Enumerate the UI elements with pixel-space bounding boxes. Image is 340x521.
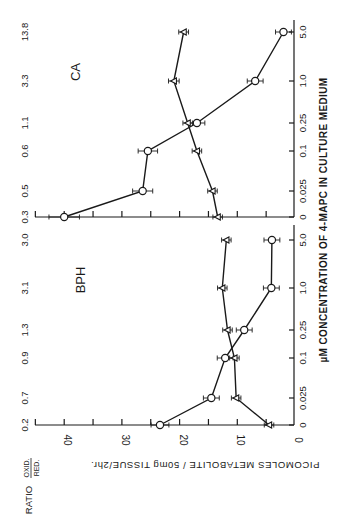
- circle-marker: [139, 187, 146, 194]
- triangle-marker: [171, 78, 177, 84]
- axis-labels: 00.30.0250.50.10.60.251.11.03.35.013.8CA…: [19, 23, 329, 514]
- panel-title: BPH: [73, 267, 88, 294]
- ratio-value: 3.1: [19, 281, 30, 294]
- triangle-marker: [214, 214, 220, 220]
- ratio-value: 1.3: [19, 323, 30, 336]
- triangle-marker: [224, 327, 230, 333]
- panel-title: CA: [68, 63, 83, 81]
- circle-marker: [61, 213, 68, 220]
- circle-marker: [268, 236, 275, 243]
- conc-tick-label: 0.1: [297, 144, 308, 157]
- circle-marker: [193, 119, 200, 126]
- value-tick-label: 30: [120, 434, 131, 446]
- ratio-value: 0.6: [19, 144, 30, 157]
- circle-marker: [252, 77, 259, 84]
- triangle-marker: [180, 29, 186, 35]
- ratio-value: 3.3: [19, 74, 30, 87]
- conc-tick-label: 0.1: [297, 351, 308, 364]
- conc-tick-label: 0: [297, 214, 308, 219]
- conc-tick-label: 5.0: [297, 25, 308, 38]
- triangle-marker: [223, 237, 229, 243]
- ratio-value: 13.8: [19, 23, 30, 42]
- circle-marker: [268, 284, 275, 291]
- triangle-marker: [194, 148, 200, 154]
- conc-tick-label: 5.0: [297, 233, 308, 246]
- circle-marker: [280, 28, 287, 35]
- plot-area: [49, 28, 291, 428]
- conc-tick-label: 0.25: [297, 114, 308, 133]
- ratio-value: 0.9: [19, 351, 30, 364]
- series-line: [160, 240, 272, 425]
- conc-tick-label: 1.0: [297, 281, 308, 294]
- circle-marker: [156, 421, 163, 428]
- triangle-marker: [233, 395, 239, 401]
- value-axis-title: PICOMOLES METABOLITE / 50mg TISSUE/2hr.: [91, 460, 320, 471]
- ratio-label: RATIO: [23, 486, 34, 514]
- triangle-marker: [184, 120, 190, 126]
- conc-tick-label: 0.025: [297, 179, 308, 203]
- ratio-numerator: OXID.: [23, 458, 30, 477]
- triangle-marker: [231, 355, 237, 361]
- triangle-marker: [219, 285, 225, 291]
- ratio-value: 0.7: [19, 391, 30, 404]
- value-tick-label: 0: [293, 437, 304, 443]
- circle-marker: [241, 326, 248, 333]
- conc-tick-label: 0.025: [297, 386, 308, 410]
- conc-tick-label: 0.25: [297, 321, 308, 340]
- circle-marker: [208, 394, 215, 401]
- concentration-axis-title: µM CONCENTRATION OF 4-MAPC IN CULTURE ME…: [318, 77, 329, 362]
- ratio-value: 0.5: [19, 184, 30, 197]
- triangle-marker: [209, 188, 215, 194]
- circle-marker: [222, 354, 229, 361]
- circle-marker: [144, 147, 151, 154]
- series-line: [64, 32, 283, 217]
- value-tick-label: 40: [62, 434, 73, 446]
- ratio-value: 1.1: [19, 116, 30, 129]
- ratio-value: 0.2: [19, 418, 30, 431]
- ratio-value: 3.0: [19, 233, 30, 246]
- conc-tick-label: 0: [297, 422, 308, 427]
- value-tick-label: 10: [235, 434, 246, 446]
- ratio-denominator: RED.: [33, 460, 40, 477]
- value-tick-label: 20: [178, 434, 189, 446]
- rotated-line-chart: 00.30.0250.50.10.60.251.11.03.35.013.8CA…: [0, 0, 340, 521]
- conc-tick-label: 1.0: [297, 74, 308, 87]
- ratio-value: 0.3: [19, 210, 30, 223]
